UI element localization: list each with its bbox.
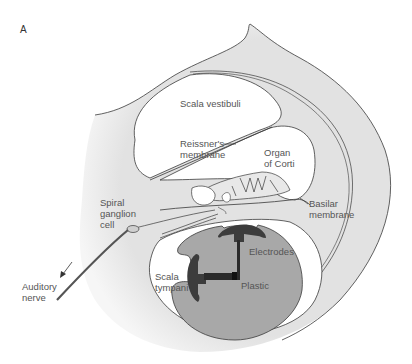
label-reissners-1: Reissner's (180, 138, 224, 149)
label-auditory-1: Auditory (22, 281, 57, 292)
panel-label: A (20, 24, 27, 35)
label-scala-tympani-1: Scala (155, 271, 179, 282)
label-spiral-3: cell (100, 219, 114, 230)
arrow-icon (60, 262, 72, 278)
spiral-limbus-detail (222, 193, 230, 203)
label-auditory-2: nerve (22, 292, 46, 303)
cochlea-implant-diagram: A Scala vestibuli Reissner (0, 0, 412, 364)
label-scala-tympani-2: tympani (155, 282, 188, 293)
label-spiral-1: Spiral (100, 197, 124, 208)
label-basilar-2: membrane (309, 209, 354, 220)
label-electrodes: Electrodes (249, 246, 294, 257)
label-plastic: Plastic (241, 280, 269, 291)
label-spiral-2: ganglion (100, 208, 136, 219)
label-basilar-1: Basilar (309, 198, 338, 209)
label-scala-vestibuli: Scala vestibuli (180, 98, 241, 109)
plastic-lead (232, 272, 237, 280)
label-organ-2: of Corti (264, 158, 295, 169)
spiral-ganglion-cell (127, 226, 139, 233)
label-reissners-2: membrane (180, 149, 225, 160)
label-organ-1: Organ (264, 147, 290, 158)
